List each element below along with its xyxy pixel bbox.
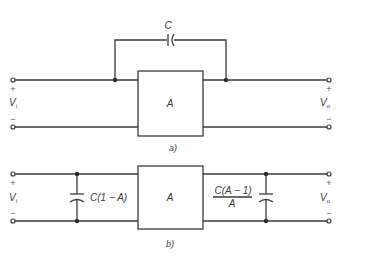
input-voltage-label: Vi <box>9 97 17 109</box>
feedback-capacitor-label: C <box>164 20 172 31</box>
figure-a: C A + Vi − + Vo − a) <box>9 20 332 153</box>
junction-dot <box>75 219 79 223</box>
input-minus-sign: − <box>10 114 15 124</box>
output-voltage-label: Vo <box>320 192 331 204</box>
caption-a: a) <box>169 143 177 153</box>
input-plus-sign: + <box>10 84 15 94</box>
input-minus-sign: − <box>10 208 15 218</box>
output-terminal-plus <box>327 78 331 82</box>
feedback-capacitor-icon <box>168 34 174 46</box>
junction-dot <box>224 78 228 82</box>
input-terminal-minus <box>11 219 15 223</box>
amplifier-label: A <box>166 98 174 109</box>
output-minus-sign: − <box>326 208 331 218</box>
amplifier-label: A <box>166 192 174 203</box>
miller-effect-diagram: C A + Vi − + Vo − a) C(1 <box>0 0 381 257</box>
output-capacitor-numerator: C(A − 1) <box>214 185 251 196</box>
output-terminal-minus <box>327 125 331 129</box>
input-terminal-plus <box>11 78 15 82</box>
junction-dot <box>75 172 79 176</box>
junction-dot <box>113 78 117 82</box>
output-voltage-label: Vo <box>320 97 331 109</box>
input-terminal-minus <box>11 125 15 129</box>
output-terminal-plus <box>327 172 331 176</box>
output-minus-sign: − <box>326 114 331 124</box>
input-terminal-plus <box>11 172 15 176</box>
junction-dot <box>264 219 268 223</box>
input-plus-sign: + <box>10 178 15 188</box>
output-capacitor-denominator: A <box>228 198 236 209</box>
input-capacitor-label: C(1 − A) <box>90 192 127 203</box>
caption-b: b) <box>166 239 174 249</box>
output-plus-sign: + <box>326 84 331 94</box>
input-voltage-label: Vi <box>9 192 17 204</box>
junction-dot <box>264 172 268 176</box>
output-plus-sign: + <box>326 178 331 188</box>
output-capacitor-icon <box>259 174 273 221</box>
input-capacitor-icon <box>70 174 84 221</box>
output-terminal-minus <box>327 219 331 223</box>
figure-b: C(1 − A) A C(A − 1) A + Vi − + Vo − b) <box>9 166 332 249</box>
